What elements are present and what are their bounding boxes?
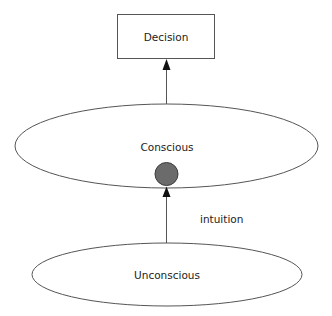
- unconscious-label: Unconscious: [134, 270, 200, 281]
- conscious-label: Conscious: [140, 142, 193, 153]
- diagram-canvas: Decision Conscious Unconscious intuition: [0, 0, 332, 316]
- decision-label: Decision: [144, 32, 189, 43]
- intuition-edge-label: intuition: [200, 214, 243, 225]
- junction-circle-icon: [155, 163, 178, 186]
- arrowhead-to-decision-icon: [163, 59, 171, 70]
